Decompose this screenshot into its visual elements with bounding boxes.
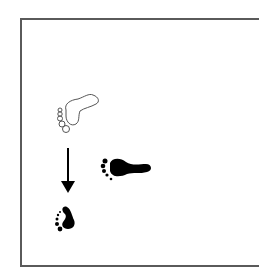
- filled-footprint-up-icon[interactable]: [55, 207, 75, 232]
- footprint-diagram: [0, 0, 259, 276]
- filled-footprint-right-icon[interactable]: [101, 159, 151, 181]
- down-arrow-icon: [61, 148, 75, 193]
- outline-footprint-icon: [58, 94, 99, 132]
